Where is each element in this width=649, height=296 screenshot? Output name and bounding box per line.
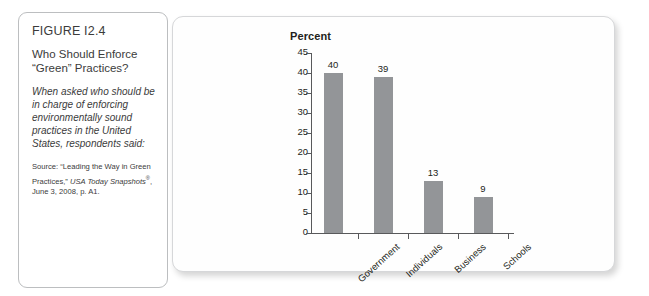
y-axis-tick-mark (306, 53, 311, 54)
y-axis-tick: 35 (277, 93, 317, 94)
y-axis-tick: 30 (277, 113, 317, 114)
x-axis-tick-mark (408, 234, 409, 239)
y-axis-tick-label: 45 (297, 46, 308, 57)
y-axis-tick-label: 5 (303, 206, 308, 217)
x-axis-category-label: Schools (501, 241, 533, 272)
figure-number: FIGURE I2.4 (32, 24, 155, 38)
bar (324, 73, 343, 233)
y-axis-tick-mark (306, 213, 311, 214)
y-axis-tick-mark (306, 93, 311, 94)
x-axis-line (311, 233, 514, 234)
bar (374, 77, 393, 233)
y-axis-tick-label: 15 (297, 166, 308, 177)
y-axis-tick-label: 10 (297, 186, 308, 197)
bar-value-label: 9 (463, 183, 503, 194)
bar-value-label: 13 (413, 167, 453, 178)
y-axis-tick-label: 25 (297, 126, 308, 137)
y-axis-tick-label: 20 (297, 146, 308, 157)
y-axis-tick: 45 (277, 53, 317, 54)
y-axis-tick-label: 40 (297, 66, 308, 77)
bar-chart-plot-area: 051015202530354045 4039139 GovernmentInd… (311, 53, 513, 233)
y-axis-tick-mark (306, 193, 311, 194)
y-axis-tick: 20 (277, 153, 317, 154)
x-axis-tick-mark (508, 234, 509, 239)
y-axis-tick: 40 (277, 73, 317, 74)
bar (474, 197, 493, 233)
y-axis-tick: 15 (277, 173, 317, 174)
y-axis-tick-mark (306, 173, 311, 174)
y-axis-tick-mark (306, 113, 311, 114)
figure-source-note: Source: “Leading the Way in Green Practi… (32, 162, 155, 197)
bar (424, 181, 443, 233)
x-axis-tick-mark (458, 234, 459, 239)
y-axis-tick-mark (306, 153, 311, 154)
y-axis-line (311, 53, 312, 234)
chart-axis-title-percent: Percent (290, 30, 331, 42)
source-publication: USA Today Snapshots (70, 176, 146, 185)
x-axis-category-label: Business (452, 241, 488, 275)
x-axis-tick-mark (358, 234, 359, 239)
y-axis-tick: 10 (277, 193, 317, 194)
y-axis-tick: 5 (277, 213, 317, 214)
y-axis-tick-mark (306, 233, 311, 234)
x-axis-category-label: Government (355, 241, 401, 284)
y-axis-tick-mark (306, 73, 311, 74)
y-axis-tick-label: 30 (297, 106, 308, 117)
y-axis-tick-mark (306, 133, 311, 134)
chart-panel: Percent 051015202530354045 4039139 Gover… (172, 16, 615, 272)
figure-caption-card: FIGURE I2.4 Who Should Enforce “Green” P… (18, 12, 168, 288)
y-axis-tick-label: 0 (303, 226, 308, 237)
y-axis-tick-label: 35 (297, 86, 308, 97)
y-axis-tick: 25 (277, 133, 317, 134)
figure-lede-text: When asked who should be in charge of en… (32, 85, 155, 150)
bar-value-label: 39 (363, 63, 403, 74)
y-axis-tick: 0 (277, 233, 317, 234)
bar-value-label: 40 (313, 59, 353, 70)
x-axis-category-label: Individuals (404, 241, 445, 279)
figure-title: Who Should Enforce “Green” Practices? (32, 47, 155, 75)
